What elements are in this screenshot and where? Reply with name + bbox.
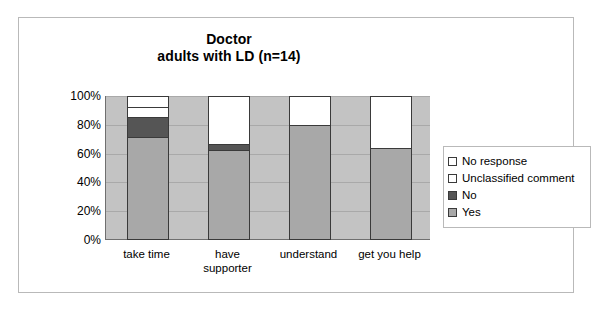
x-axis-label-line: supporter	[187, 261, 268, 275]
bar-segment-unclassified-comment[interactable]	[290, 97, 330, 125]
y-tick-label-100: 100%	[31, 90, 101, 102]
chart-legend: No responseUnclassified commentNoYes	[443, 146, 591, 228]
x-axis-label-1: take time	[106, 244, 187, 286]
chart-title-block: Doctor adults with LD (n=14)	[19, 31, 439, 65]
x-axis-label-2: havesupporter	[187, 244, 268, 286]
bar-slot	[107, 96, 188, 240]
bar-series-container	[107, 96, 431, 240]
plot-area-wrapper	[105, 96, 430, 240]
legend-swatch-icon	[448, 191, 457, 200]
bar-segment-unclassified-comment[interactable]	[371, 97, 411, 148]
legend-item[interactable]: Yes	[448, 204, 586, 220]
x-axis-labels: take timehavesupporterunderstandget you …	[106, 244, 430, 286]
bar-segment-yes[interactable]	[290, 125, 330, 239]
stacked-bar[interactable]	[208, 96, 250, 240]
plot-area	[105, 96, 430, 240]
bar-segment-yes[interactable]	[128, 137, 168, 239]
x-axis-label-line: have	[187, 247, 268, 261]
stacked-bar[interactable]	[127, 96, 169, 240]
legend-label: Yes	[462, 206, 481, 219]
stacked-bar[interactable]	[370, 96, 412, 240]
legend-swatch-icon	[448, 157, 457, 166]
bar-segment-yes[interactable]	[209, 150, 249, 239]
y-tick-label-60: 60%	[31, 148, 101, 160]
legend-item[interactable]: No	[448, 187, 586, 203]
x-axis-label-line: understand	[268, 247, 349, 261]
legend-label: No	[462, 189, 477, 202]
legend-swatch-icon	[448, 208, 457, 217]
legend-label: Unclassified comment	[462, 172, 574, 185]
x-axis-label-4: get you help	[349, 244, 430, 286]
bar-slot	[269, 96, 350, 240]
chart-frame: Doctor adults with LD (n=14) 100% 80% 60…	[18, 17, 574, 293]
bar-slot	[350, 96, 431, 240]
legend-label: No response	[462, 155, 527, 168]
x-axis-label-line: take time	[106, 247, 187, 261]
bar-segment-no-response[interactable]	[128, 97, 168, 107]
y-tick-label-40: 40%	[31, 176, 101, 188]
x-axis-label-line: get you help	[349, 247, 430, 261]
y-axis: 100% 80% 60% 40% 20% 0%	[29, 96, 101, 241]
chart-subtitle: adults with LD (n=14)	[19, 48, 439, 65]
bar-slot	[188, 96, 269, 240]
bar-segment-yes[interactable]	[371, 148, 411, 239]
bar-segment-unclassified-comment[interactable]	[209, 97, 249, 144]
legend-item[interactable]: Unclassified comment	[448, 170, 586, 186]
bar-segment-no[interactable]	[128, 117, 168, 137]
bar-segment-unclassified-comment[interactable]	[128, 107, 168, 117]
y-tick-label-20: 20%	[31, 205, 101, 217]
chart-title: Doctor	[19, 31, 439, 48]
y-tick-label-80: 80%	[31, 119, 101, 131]
x-axis-label-3: understand	[268, 244, 349, 286]
stacked-bar[interactable]	[289, 96, 331, 240]
legend-swatch-icon	[448, 174, 457, 183]
y-tick-label-0: 0%	[31, 234, 101, 246]
legend-item[interactable]: No response	[448, 153, 586, 169]
